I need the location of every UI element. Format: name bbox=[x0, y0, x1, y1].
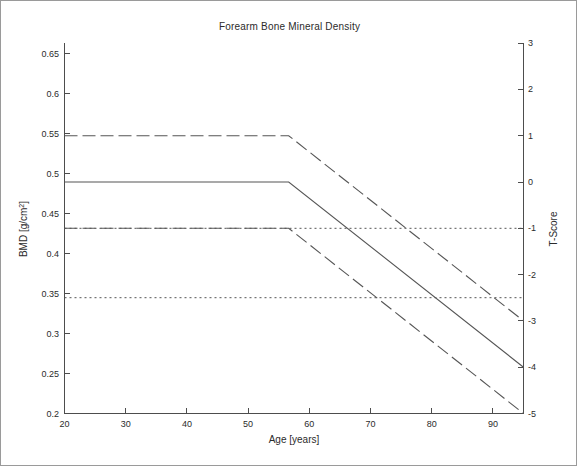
y-tick-label: 0.5 bbox=[46, 169, 59, 179]
x-axis-ticks: 20 30 40 50 60 70 80 90 bbox=[59, 408, 497, 429]
y-tick-label: 0.2 bbox=[46, 409, 59, 419]
y-tick-label: 0.3 bbox=[46, 329, 59, 339]
t-score-tick-label: 3 bbox=[528, 38, 533, 48]
y-axis-right-title: T-Score bbox=[548, 211, 559, 246]
figure-window: Forearm Bone Mineral Density 0.2 0.25 0.… bbox=[0, 0, 577, 466]
y-tick-label: 0.25 bbox=[41, 369, 59, 379]
y-tick-label: 0.55 bbox=[41, 129, 59, 139]
t-score-tick-label: 2 bbox=[528, 84, 533, 94]
x-tick-label: 40 bbox=[182, 419, 192, 429]
x-tick-label: 80 bbox=[427, 419, 437, 429]
t-score-tick-label: -1 bbox=[528, 223, 536, 233]
y-axis-left-title: BMD [g/cm2] bbox=[18, 201, 29, 257]
chart-plot-area: 0.2 0.25 0.3 0.35 0.4 0.45 0.5 0.55 0.6 … bbox=[1, 1, 577, 466]
t-score-tick-label: 1 bbox=[528, 131, 533, 141]
y-tick-label: 0.65 bbox=[41, 49, 59, 59]
y-tick-label: 0.45 bbox=[41, 209, 59, 219]
y-axis-left-ticks: 0.2 0.25 0.3 0.35 0.4 0.45 0.5 0.55 0.6 … bbox=[41, 49, 70, 419]
x-tick-label: 50 bbox=[243, 419, 253, 429]
t-score-tick-label: -2 bbox=[528, 270, 536, 280]
x-tick-label: 70 bbox=[365, 419, 375, 429]
mean-curve bbox=[65, 182, 524, 367]
x-tick-label: 30 bbox=[121, 419, 131, 429]
x-axis-title: Age [years] bbox=[269, 434, 320, 445]
x-tick-label: 60 bbox=[304, 419, 314, 429]
t-score-tick-label: -4 bbox=[528, 362, 536, 372]
y-axis-left-title-tail: ] bbox=[18, 201, 29, 204]
t-score-tick-label: -5 bbox=[528, 409, 536, 419]
t-score-tick-label: -3 bbox=[528, 316, 536, 326]
t-score-tick-label: 0 bbox=[528, 177, 533, 187]
y-tick-label: 0.6 bbox=[46, 89, 59, 99]
lower-reference-curve bbox=[65, 228, 524, 413]
x-tick-label: 20 bbox=[59, 419, 69, 429]
y-axis-left-title-base: BMD [g/cm bbox=[18, 208, 29, 257]
x-tick-label: 90 bbox=[488, 419, 498, 429]
y-tick-label: 0.4 bbox=[46, 249, 59, 259]
y-tick-label: 0.35 bbox=[41, 289, 59, 299]
